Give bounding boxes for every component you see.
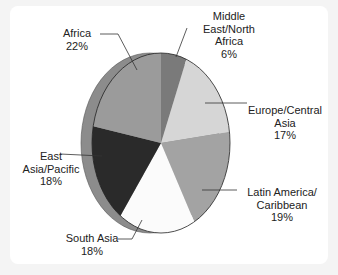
slice-category-label: Asia/Pacific	[23, 163, 80, 175]
pie-chart: MiddleEast/NorthAfrica6%Europe/CentralAs…	[0, 0, 338, 275]
slice-category-label: Europe/Central	[248, 104, 322, 116]
slice-value-label: 18%	[40, 175, 62, 187]
slice-category-label: East	[40, 150, 62, 162]
slice-category-label: East/North	[203, 23, 255, 35]
slice-category-label: Africa	[63, 27, 92, 39]
slice-category-label: South Asia	[66, 232, 119, 244]
slice-category-label: Asia	[274, 117, 296, 129]
slice-value-label: 22%	[66, 40, 88, 52]
slice-category-label: Middle	[213, 10, 245, 22]
slice-value-label: 19%	[271, 211, 293, 223]
slice-value-label: 18%	[81, 245, 103, 257]
leader-line	[176, 28, 187, 57]
slice-category-label: Latin America/	[247, 186, 318, 198]
slice-value-label: 6%	[221, 48, 237, 60]
slice-category-label: Africa	[215, 35, 244, 47]
slice-value-label: 17%	[274, 129, 296, 141]
slice-category-label: Caribbean	[257, 199, 308, 211]
